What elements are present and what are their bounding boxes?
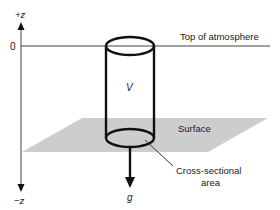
atmospheric-column-diagram: +z −z 0 Top of atmosphere V Surface g Cr…: [0, 0, 280, 210]
volume-label: V: [126, 82, 134, 93]
surface-label: Surface: [178, 123, 211, 134]
top-of-atmosphere-label: Top of atmosphere: [180, 31, 259, 42]
gravity-arrow-head-icon: [125, 177, 135, 188]
zero-label: 0: [10, 41, 16, 52]
z-axis-down-arrow-icon: [18, 184, 25, 192]
plus-z-label: +z: [15, 9, 26, 20]
surface-plane: [22, 118, 268, 152]
cross-sectional-label-line1: Cross-sectional: [176, 165, 241, 176]
minus-z-label: −z: [14, 195, 25, 206]
cross-sectional-label-line2: area: [201, 177, 221, 188]
gravity-label: g: [127, 192, 133, 203]
z-axis-up-arrow-icon: [18, 22, 25, 30]
